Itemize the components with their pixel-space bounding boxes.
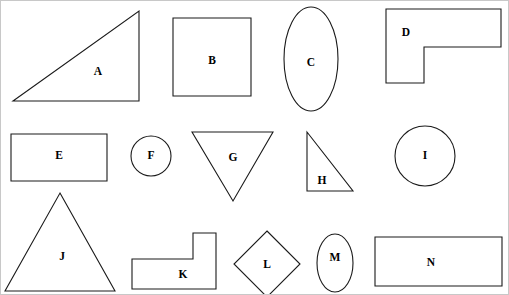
shape-b[interactable]: B: [173, 18, 251, 96]
shapes-figure: ABCDEFGHIJKLMN: [0, 0, 509, 295]
shape-label-k: K: [179, 268, 188, 280]
shape-a[interactable]: A: [13, 11, 139, 101]
shape-d[interactable]: D: [386, 9, 501, 83]
shape-l[interactable]: L: [234, 231, 300, 295]
shape-outline-m: [317, 234, 353, 292]
shape-label-b: B: [208, 54, 216, 66]
shape-outline-n: [375, 237, 502, 286]
shape-h[interactable]: H: [307, 132, 353, 191]
shape-outline-k: [132, 233, 216, 289]
shape-label-c: C: [307, 56, 315, 68]
shape-e[interactable]: E: [11, 134, 107, 181]
shape-label-i: I: [423, 149, 428, 161]
shape-label-j: J: [59, 250, 65, 262]
shape-label-h: H: [318, 174, 327, 186]
shape-outline-h: [307, 132, 353, 191]
shape-canvas: ABCDEFGHIJKLMN: [1, 1, 509, 295]
shape-i[interactable]: I: [395, 126, 455, 186]
shape-label-a: A: [94, 65, 103, 77]
shape-outline-g: [192, 132, 273, 201]
shape-label-f: F: [147, 149, 154, 161]
shape-outline-j: [5, 193, 115, 291]
shape-f[interactable]: F: [131, 136, 171, 176]
shape-label-e: E: [55, 149, 63, 161]
shape-j[interactable]: J: [5, 193, 115, 291]
shape-outline-d: [386, 9, 501, 83]
shape-outline-a: [13, 11, 139, 101]
shape-label-n: N: [427, 256, 436, 268]
shape-n[interactable]: N: [375, 237, 502, 286]
shape-label-g: G: [229, 151, 238, 163]
shape-label-l: L: [263, 258, 271, 270]
shape-label-d: D: [402, 26, 410, 38]
shape-c[interactable]: C: [284, 7, 338, 111]
shape-k[interactable]: K: [132, 233, 216, 289]
shape-label-m: M: [330, 251, 341, 263]
shape-m[interactable]: M: [317, 234, 353, 292]
shape-g[interactable]: G: [192, 132, 273, 201]
